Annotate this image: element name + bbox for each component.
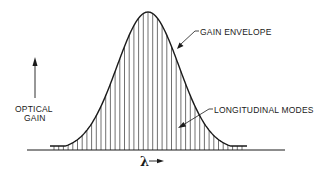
x-axis-label: λ [140, 154, 149, 169]
y-axis-label-line2: GAIN [24, 113, 46, 123]
gain-diagram: OPTICAL GAIN λ GAIN ENVELOPE LONGITUDINA… [0, 0, 332, 174]
y-axis-arrow-icon [33, 57, 38, 98]
gain-envelope-label: GAIN ENVELOPE [200, 27, 272, 37]
longitudinal-modes-label: LONGITUDINAL MODES [214, 105, 314, 115]
x-axis-arrow-icon [149, 159, 164, 164]
gain-envelope-leader [177, 31, 199, 49]
longitudinal-modes-leader [178, 109, 213, 128]
